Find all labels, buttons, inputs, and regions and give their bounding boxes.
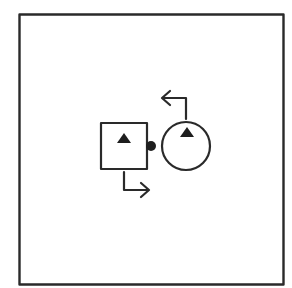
connector-dot xyxy=(146,141,156,151)
bottom-arrow-icon xyxy=(124,172,149,197)
diagram-canvas xyxy=(0,0,292,288)
square-triangle-icon xyxy=(117,133,131,143)
top-arrow-icon xyxy=(162,91,186,119)
square-shape xyxy=(101,123,147,169)
circle-triangle-icon xyxy=(180,127,194,137)
